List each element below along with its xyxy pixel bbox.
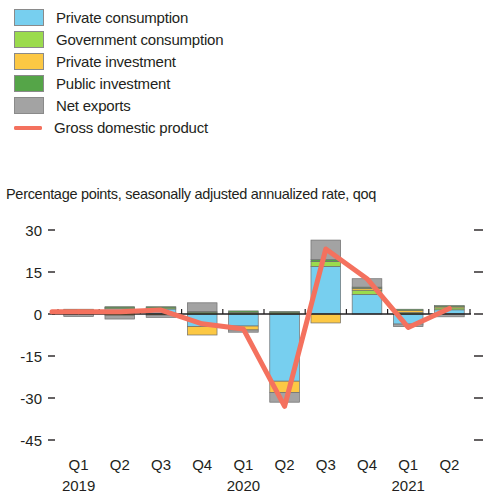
bar-segment [229, 314, 259, 326]
chart-legend: Private consumptionGovernment consumptio… [14, 6, 223, 138]
legend-color-swatch-icon [14, 9, 44, 26]
legend-item: Net exports [14, 94, 223, 116]
legend-item: Private consumption [14, 6, 223, 28]
legend-item: Gross domestic product [14, 116, 223, 138]
gdp-line [79, 249, 450, 406]
legend-line-swatch-icon [14, 120, 42, 135]
chart-x-axis: Q1Q2Q3Q4Q1Q2Q3Q4Q1Q2201920202021 [0, 452, 491, 500]
legend-color-swatch-icon [14, 53, 44, 70]
x-year-label: 2019 [62, 477, 95, 494]
legend-color-swatch-icon [14, 31, 44, 48]
x-year-label: 2021 [392, 477, 425, 494]
x-tick-label: Q1 [398, 456, 418, 473]
legend-color-swatch-icon [14, 75, 44, 92]
x-year-label: 2020 [227, 477, 260, 494]
legend-item: Public investment [14, 72, 223, 94]
bar-segment [270, 311, 300, 312]
y-tick-label: -45 [20, 432, 42, 449]
x-tick-label: Q4 [357, 456, 377, 473]
x-tick-label: Q2 [439, 456, 459, 473]
x-tick-label: Q4 [192, 456, 212, 473]
chart-plot-area: 30150-15-30-45 [0, 212, 491, 452]
legend-item-label: Gross domestic product [54, 119, 208, 136]
x-tick-label: Q1 [233, 456, 253, 473]
bar-segment [229, 311, 259, 312]
chart-svg: 30150-15-30-45 [0, 212, 491, 452]
y-tick-label: 15 [25, 264, 42, 281]
x-tick-label: Q1 [69, 456, 89, 473]
x-tick-label: Q3 [316, 456, 336, 473]
x-tick-label: Q2 [275, 456, 295, 473]
x-tick-label: Q3 [151, 456, 171, 473]
x-tick-label: Q2 [110, 456, 130, 473]
bar-segment [105, 307, 135, 308]
legend-item-label: Public investment [56, 75, 170, 92]
legend-item-label: Private investment [56, 53, 176, 70]
bar-segment [352, 294, 382, 314]
legend-item-label: Net exports [56, 97, 131, 114]
legend-item-label: Private consumption [56, 9, 188, 26]
x-axis-svg: Q1Q2Q3Q4Q1Q2Q3Q4Q1Q2201920202021 [0, 452, 491, 500]
bar-segment [393, 309, 423, 310]
chart-subtitle: Percentage points, seasonally adjusted a… [6, 186, 376, 202]
legend-item-label: Government consumption [56, 31, 223, 48]
legend-item: Private investment [14, 50, 223, 72]
bar-segment [311, 261, 341, 266]
y-tick-label: 0 [34, 306, 42, 323]
bar-segment [105, 316, 135, 319]
y-tick-label: -15 [20, 348, 42, 365]
legend-item: Government consumption [14, 28, 223, 50]
bar-segment [187, 327, 217, 335]
legend-color-swatch-icon [14, 97, 44, 114]
y-tick-label: 30 [25, 222, 42, 239]
bar-segment [187, 303, 217, 312]
y-tick-label: -30 [20, 390, 42, 407]
bar-segment [311, 314, 341, 323]
